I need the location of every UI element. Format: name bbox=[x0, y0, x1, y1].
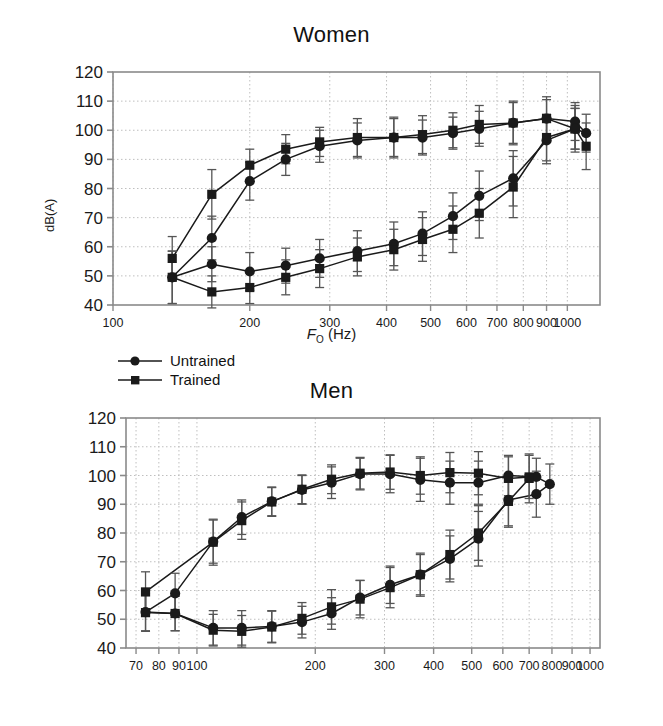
svg-text:70: 70 bbox=[97, 553, 116, 572]
x-axis-label-women: FO (Hz) bbox=[0, 325, 663, 345]
legend-marker-square-icon bbox=[118, 373, 162, 387]
y-axis-label-women: dB(A) bbox=[42, 199, 57, 232]
svg-text:70: 70 bbox=[129, 659, 143, 673]
svg-text:110: 110 bbox=[89, 438, 116, 457]
legend: Untrained Trained bbox=[118, 352, 235, 388]
legend-label-trained: Trained bbox=[170, 371, 220, 388]
svg-text:700: 700 bbox=[519, 659, 540, 673]
svg-text:80: 80 bbox=[84, 180, 103, 199]
svg-text:500: 500 bbox=[461, 659, 482, 673]
x-axis-label-unit: (Hz) bbox=[328, 325, 356, 342]
svg-text:40: 40 bbox=[97, 639, 116, 658]
svg-text:100: 100 bbox=[75, 121, 103, 140]
svg-text:120: 120 bbox=[75, 63, 103, 82]
plot-area-men: 4050607080901001101207080901002003004005… bbox=[0, 372, 663, 726]
svg-text:100: 100 bbox=[88, 467, 116, 486]
x-axis-label-symbol: F bbox=[307, 325, 316, 342]
svg-text:60: 60 bbox=[97, 582, 116, 601]
x-axis-label-subscript: O bbox=[316, 334, 324, 345]
svg-text:50: 50 bbox=[97, 610, 116, 629]
chart-panel-men: Men 405060708090100110120708090100200300… bbox=[0, 372, 663, 726]
svg-text:80: 80 bbox=[152, 659, 166, 673]
svg-text:80: 80 bbox=[97, 524, 116, 543]
legend-item-untrained: Untrained bbox=[118, 352, 235, 369]
legend-item-trained: Trained bbox=[118, 371, 235, 388]
svg-text:300: 300 bbox=[374, 659, 395, 673]
svg-text:50: 50 bbox=[84, 267, 103, 286]
svg-text:400: 400 bbox=[423, 659, 444, 673]
svg-text:90: 90 bbox=[172, 659, 186, 673]
svg-text:800: 800 bbox=[542, 659, 563, 673]
svg-text:90: 90 bbox=[84, 150, 103, 169]
svg-text:90: 90 bbox=[97, 495, 116, 514]
plot-area-women: 4050607080901001101201002003004005006007… bbox=[0, 0, 663, 355]
svg-text:200: 200 bbox=[305, 659, 326, 673]
chart-panel-women: Women 4050607080901001101201002003004005… bbox=[0, 0, 663, 355]
svg-text:110: 110 bbox=[76, 92, 103, 111]
legend-label-untrained: Untrained bbox=[170, 352, 235, 369]
svg-text:40: 40 bbox=[84, 296, 103, 315]
svg-text:600: 600 bbox=[492, 659, 513, 673]
svg-text:1000: 1000 bbox=[576, 659, 604, 673]
legend-marker-circle-icon bbox=[118, 354, 162, 368]
svg-text:120: 120 bbox=[88, 409, 116, 428]
svg-text:70: 70 bbox=[84, 209, 103, 228]
svg-text:60: 60 bbox=[84, 238, 103, 257]
svg-text:100: 100 bbox=[187, 659, 208, 673]
